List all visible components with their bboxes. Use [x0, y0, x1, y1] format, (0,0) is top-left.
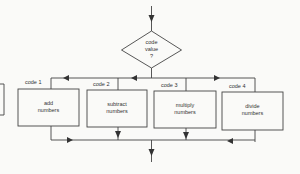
decision-line-1: code: [136, 39, 167, 46]
flowchart-canvas: [0, 0, 300, 174]
partial-box-left: [0, 84, 4, 115]
arrow-left-icon: [227, 138, 233, 144]
arrow-right-icon: [214, 75, 220, 81]
decision-line-2: value: [136, 46, 167, 53]
decision-label: code value ?: [136, 39, 167, 60]
process-divide-line-2: numbers: [222, 110, 283, 117]
process-multiply-text: multiply numbers: [154, 102, 216, 116]
arrow-down-icon: [115, 131, 121, 138]
arrow-left-icon: [131, 75, 137, 81]
arrow-left-icon: [63, 75, 69, 81]
process-add-text: add numbers: [18, 100, 79, 114]
arrow-down-icon: [183, 132, 189, 139]
arrow-down-icon: [149, 15, 155, 22]
code-4-label: code 4: [229, 83, 246, 90]
process-add-line-2: numbers: [18, 107, 79, 114]
process-multiply-line-1: multiply: [154, 102, 216, 109]
process-subtract-line-2: numbers: [87, 108, 147, 115]
code-2-label: code 2: [93, 81, 110, 88]
process-divide-line-1: divide: [222, 103, 283, 110]
process-add-line-1: add: [18, 100, 79, 107]
decision-line-3: ?: [136, 53, 167, 60]
process-divide-text: divide numbers: [222, 103, 283, 117]
code-3-label: code 3: [161, 82, 178, 89]
process-multiply-line-2: numbers: [154, 109, 216, 116]
code-1-label: code 1: [25, 79, 42, 86]
process-subtract-line-1: subtract: [87, 101, 147, 108]
arrow-right-icon: [67, 137, 73, 143]
arrow-down-icon: [149, 149, 155, 156]
process-subtract-text: subtract numbers: [87, 101, 147, 115]
